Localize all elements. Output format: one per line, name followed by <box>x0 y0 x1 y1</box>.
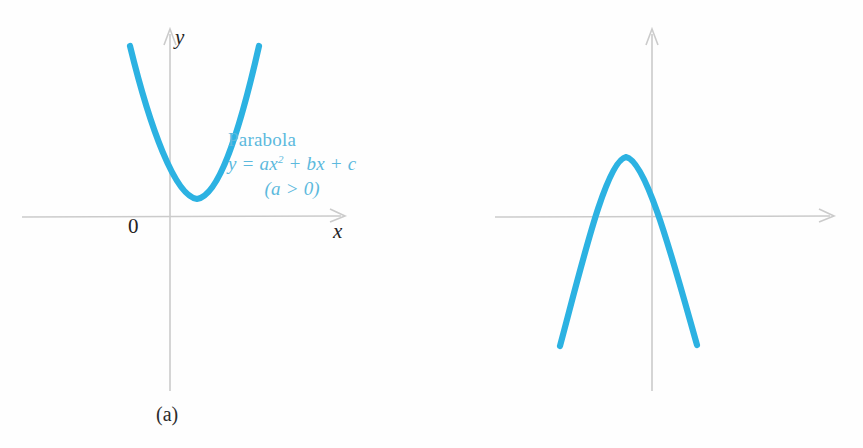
panel-parabola-downward: Parabola y = ax2 + bx + c (a < 0) y x 0 … <box>432 0 863 448</box>
x-axis-label-a: x <box>333 219 342 244</box>
annotation-block-a: Parabola y = ax2 + bx + c (a > 0) <box>228 128 356 201</box>
annotation-equation-a: y = ax2 + bx + c <box>228 152 356 176</box>
y-axis-a <box>164 29 176 391</box>
panel-b-graph <box>432 0 863 448</box>
annotation-title-a: Parabola <box>228 128 356 152</box>
annotation-condition-a: (a > 0) <box>228 177 356 201</box>
x-axis-a <box>22 209 345 222</box>
x-axis-b <box>495 209 834 222</box>
equation-lhs-a: y = ax <box>228 153 278 174</box>
y-axis-label-a: y <box>175 25 184 50</box>
panel-a-graph <box>0 0 432 448</box>
parabola-curve-b <box>560 157 697 346</box>
origin-label-a: 0 <box>128 214 139 239</box>
panel-parabola-upward: Parabola y = ax2 + bx + c (a > 0) y x 0 … <box>0 0 432 448</box>
panel-caption-a: (a) <box>156 403 178 426</box>
equation-rhs-a: + bx + c <box>284 153 357 174</box>
figure-root: Parabola y = ax2 + bx + c (a > 0) y x 0 … <box>0 0 863 448</box>
